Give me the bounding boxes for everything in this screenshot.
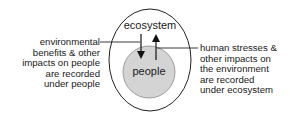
left-annotation: environmental benefits & other impacts o… bbox=[22, 37, 100, 90]
right-annotation: human stresses & other impacts on the en… bbox=[200, 43, 277, 96]
left-annotation-line: environmental bbox=[22, 37, 100, 48]
people-label: people bbox=[122, 65, 176, 77]
right-annotation-line: human stresses & bbox=[200, 43, 277, 54]
left-annotation-line: under people bbox=[22, 79, 100, 90]
right-annotation-line: under ecosystem bbox=[200, 85, 277, 96]
ecosystem-label: ecosystem bbox=[122, 19, 178, 31]
